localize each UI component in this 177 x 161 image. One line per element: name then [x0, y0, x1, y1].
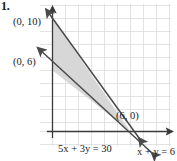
point-label-6-0: (6, 0): [116, 110, 139, 121]
line-x-y-6: [38, 48, 152, 153]
problem-number: 1.: [1, 0, 10, 12]
point-label-0-6: (0, 6): [13, 56, 36, 67]
linear-programming-figure: 1. (0, 10) (0, 6) (6, 0) 5x + 3y = 30 x …: [0, 0, 177, 161]
equation-label-line-2: x + y = 6: [137, 146, 175, 157]
point-label-0-10: (0, 10): [13, 16, 41, 27]
equation-label-line-1: 5x + 3y = 30: [58, 143, 112, 154]
